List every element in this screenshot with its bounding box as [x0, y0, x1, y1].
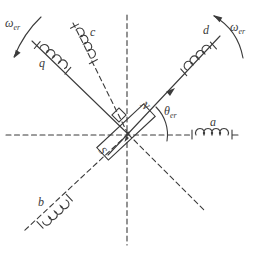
- d-axis-label: d: [203, 24, 209, 36]
- q-axis-line: [32, 41, 128, 134]
- q-axis-label: q: [39, 57, 45, 69]
- a-axis-label: a: [210, 116, 216, 128]
- q-axis-extension-line: [128, 134, 206, 212]
- omega-er-label-left: ωer: [5, 17, 20, 29]
- b-axis-line: [24, 134, 128, 231]
- theta-er-label: θer: [164, 105, 177, 117]
- b-axis-label: b: [38, 196, 44, 208]
- c-axis-line: [73, 23, 128, 134]
- omega-er-label-right: ωer: [230, 21, 245, 33]
- coil-a-icon: [192, 128, 238, 139]
- machine-axes-diagram: ωer ωer θer a b c d q N S: [0, 0, 260, 259]
- c-axis-label: c: [90, 26, 95, 38]
- d-axis-line: [108, 36, 220, 155]
- diagram-canvas: [0, 0, 260, 259]
- origin-dot: [126, 131, 129, 134]
